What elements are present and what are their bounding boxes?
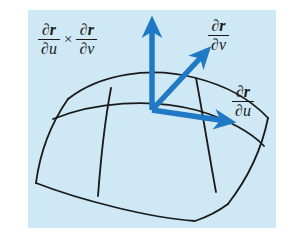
partial-r-partial-v-fraction: ∂r ∂v [76, 22, 97, 57]
surface-right-edge-curve [228, 118, 268, 204]
fraction-numerator: ∂r [232, 84, 254, 102]
surface-left-edge-curve [36, 99, 68, 183]
fraction-denominator: ∂v [208, 36, 229, 53]
fraction-numerator: ∂r [208, 18, 229, 36]
partial-r-partial-u-fraction: ∂r ∂u [38, 22, 60, 57]
cross-product-operator: × [60, 32, 76, 47]
figure-root: ∂r ∂u × ∂r ∂v ∂r ∂v ∂r ∂u [0, 0, 295, 240]
surface-u-grid-curve-right [196, 78, 216, 192]
fraction-denominator: ∂v [76, 40, 97, 57]
fraction-denominator: ∂u [38, 40, 60, 57]
partial-r-partial-v-fraction: ∂r ∂v [208, 18, 229, 53]
fraction-numerator: ∂r [76, 22, 97, 40]
fraction-numerator: ∂r [38, 22, 60, 40]
partial-r-partial-u-label: ∂r ∂u [232, 84, 254, 119]
partial-r-partial-v-label: ∂r ∂v [208, 18, 229, 53]
cross-product-label: ∂r ∂u × ∂r ∂v [38, 22, 97, 57]
fraction-denominator: ∂u [232, 102, 254, 119]
partial-r-partial-u-fraction: ∂r ∂u [232, 84, 254, 119]
surface-u-grid-curve-left [98, 88, 111, 196]
surface-bottom-boundary-curve [36, 183, 228, 221]
